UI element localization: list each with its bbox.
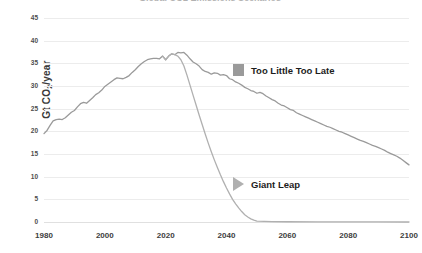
legend-label-too-little-too-late: Too Little Too Late <box>251 65 335 76</box>
y-axis-tick-label: 35 <box>12 59 38 66</box>
y-axis-tick-label: 45 <box>12 14 38 21</box>
y-axis-tick-label: 10 <box>12 173 38 180</box>
square-marker-icon <box>233 64 244 76</box>
x-axis-tick-label: 2020 <box>144 231 188 240</box>
chart-container: Global CO2 Emissions Scenarios Gt CO2/ye… <box>0 0 422 253</box>
x-axis-tick-label: 2060 <box>265 231 309 240</box>
y-axis-tick-label: 0 <box>12 218 38 225</box>
x-axis-tick-label: 2040 <box>205 231 249 240</box>
x-axis-tick-label: 2000 <box>83 231 127 240</box>
chart-title: Global CO2 Emissions Scenarios <box>60 0 360 3</box>
x-axis-tick-label: 2100 <box>387 231 422 240</box>
legend-item-giant-leap[interactable]: Giant Leap <box>233 177 300 191</box>
x-axis-tick-label: 2080 <box>326 231 370 240</box>
y-axis-tick-label: 5 <box>12 195 38 202</box>
series-lines <box>44 18 409 222</box>
triangle-marker-icon <box>233 177 244 191</box>
y-axis-tick-label: 30 <box>12 82 38 89</box>
series-line-too-little-too-late <box>44 52 409 164</box>
x-axis-tick-label: 1980 <box>22 231 66 240</box>
y-axis-tick-label: 20 <box>12 127 38 134</box>
y-axis-tick-label: 25 <box>12 105 38 112</box>
plot-area <box>44 18 409 222</box>
series-line-giant-leap <box>163 54 409 222</box>
y-axis-tick-label: 40 <box>12 37 38 44</box>
y-axis-tick-label: 15 <box>12 150 38 157</box>
legend-item-too-little-too-late[interactable]: Too Little Too Late <box>233 64 335 76</box>
legend-label-giant-leap: Giant Leap <box>251 179 300 190</box>
